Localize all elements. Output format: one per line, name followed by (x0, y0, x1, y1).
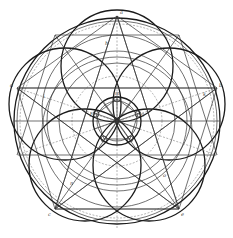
geometric-diagram: a d b c e m f g h i k n o (0, 0, 233, 238)
label-upper-mid: h (105, 40, 108, 46)
label-lower-left: n (70, 180, 73, 186)
inner-wheel (93, 96, 141, 145)
label-right: b (219, 82, 222, 88)
label-right-mid: k (203, 91, 206, 97)
diagram-canvas: a d b c e m f g h i k n o (0, 0, 233, 238)
label-center-top: m (115, 90, 120, 96)
label-lower-right: o (163, 172, 166, 178)
label-bottom-left: c (48, 211, 51, 217)
label-left-mid: i (43, 93, 45, 99)
label-left: d (10, 82, 13, 88)
label-bottom-right: e (181, 211, 184, 217)
label-inner-right: g (141, 111, 144, 118)
label-top: a (120, 9, 123, 15)
